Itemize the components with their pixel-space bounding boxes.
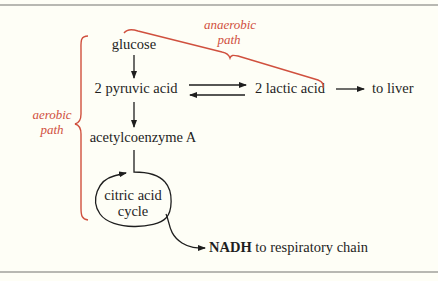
node-glucose: glucose (112, 36, 156, 52)
metabolic-pathway-diagram: glucose 2 pyruvic acid 2 lactic acid to … (0, 0, 438, 281)
node-citric-acid-cycle-line1: citric acid (104, 187, 162, 203)
node-acetylcoenzyme-a: acetylcoenzyme A (90, 129, 197, 145)
aerobic-brace-icon (75, 36, 88, 220)
nadh-bold: NADH (209, 239, 252, 255)
label-aerobic-path: path (39, 122, 63, 137)
nadh-rest: to respiratory chain (252, 239, 369, 255)
label-anaerobic-path: path (216, 32, 240, 47)
label-aerobic: aerobic (32, 107, 71, 122)
node-nadh: NADH to respiratory chain (209, 239, 369, 255)
line-acetyl-to-cycle (134, 150, 165, 182)
node-lactic-acid: 2 lactic acid (255, 80, 326, 96)
node-pyruvic-acid: 2 pyruvic acid (95, 80, 179, 96)
node-to-liver: to liver (372, 80, 414, 96)
label-anaerobic: anaerobic (204, 17, 256, 32)
arrow-cycle-to-nadh (166, 214, 205, 248)
diagram-frame: glucose 2 pyruvic acid 2 lactic acid to … (0, 0, 438, 281)
node-citric-acid-cycle-line2: cycle (118, 203, 149, 219)
